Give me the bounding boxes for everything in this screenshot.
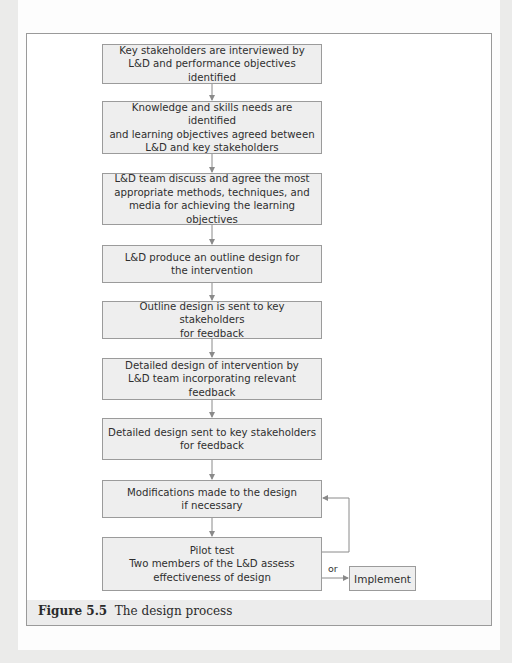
flow-step-9-pilot-test: Pilot test Two members of the L&D assess… xyxy=(102,537,322,591)
flow-step-5: Outline design is sent to key stakeholde… xyxy=(102,301,322,339)
flow-step-text: Detailed design sent to key stakeholders… xyxy=(108,426,316,453)
flow-step-text: L&D team discuss and agree the most appr… xyxy=(107,172,317,226)
flow-step-6: Detailed design of intervention by L&D t… xyxy=(102,358,322,400)
flow-step-implement: Implement xyxy=(349,566,416,591)
flow-step-text: Detailed design of intervention by L&D t… xyxy=(107,359,317,400)
flow-step-1: Key stakeholders are interviewed by L&D … xyxy=(102,44,322,84)
flow-step-text: Knowledge and skills needs are identifie… xyxy=(107,101,317,155)
flow-step-2: Knowledge and skills needs are identifie… xyxy=(102,101,322,154)
flow-step-text: Modifications made to the design if nece… xyxy=(127,486,297,513)
flow-step-4: L&D produce an outline design for the in… xyxy=(102,245,322,283)
flow-step-text: Pilot test Two members of the L&D assess… xyxy=(129,544,294,585)
flow-step-7: Detailed design sent to key stakeholders… xyxy=(102,418,322,460)
implement-text: Implement xyxy=(354,573,411,585)
flow-step-text: L&D produce an outline design for the in… xyxy=(125,251,300,278)
figure-caption-label: Figure 5.5 xyxy=(38,604,107,618)
figure-caption: Figure 5.5 The design process xyxy=(38,604,232,618)
branch-or-label: or xyxy=(328,563,338,574)
figure-caption-text: The design process xyxy=(115,604,232,618)
flow-step-8: Modifications made to the design if nece… xyxy=(102,480,322,518)
flow-step-3: L&D team discuss and agree the most appr… xyxy=(102,173,322,225)
flow-step-text: Outline design is sent to key stakeholde… xyxy=(107,300,317,341)
flow-step-text: Key stakeholders are interviewed by L&D … xyxy=(107,44,317,85)
